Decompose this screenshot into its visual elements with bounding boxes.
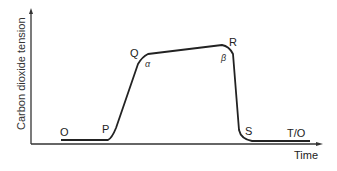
- angle-label-beta: β: [221, 54, 226, 63]
- point-label-q: Q: [130, 48, 139, 59]
- x-axis-arrow-icon: [316, 142, 323, 146]
- point-label-r: R: [229, 37, 237, 48]
- angle-label-alpha: α: [145, 60, 150, 69]
- point-label-s: S: [245, 126, 252, 137]
- point-label-o: O: [60, 127, 69, 138]
- x-axis-label: Time: [294, 150, 318, 161]
- point-label-p: P: [102, 124, 109, 135]
- y-axis-label: Carbon dioxide tension: [16, 17, 27, 130]
- capnogram-waveform: [61, 45, 310, 141]
- y-axis-arrow-icon: [29, 8, 33, 14]
- point-label-t-o: T/O: [287, 128, 305, 139]
- capnogram-diagram: [0, 0, 337, 171]
